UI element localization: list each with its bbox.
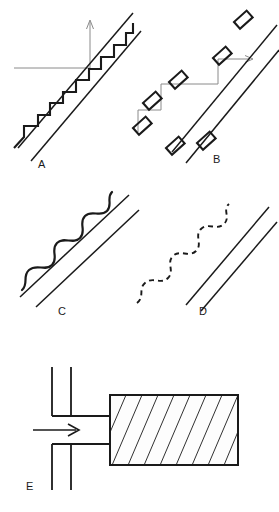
panel-e-block [96,395,252,470]
panel-a-label: A [38,158,46,170]
panel-c-label: C [58,305,66,317]
panel-e-block-outline [110,395,238,465]
figure-canvas: A B [0,0,279,512]
panel-b-label: B [213,153,220,165]
panel-d-label: D [199,305,207,317]
panel-e-label: E [26,480,33,492]
